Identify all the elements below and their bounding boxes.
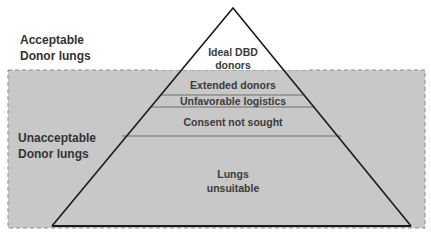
tier-unsuitable-line2: unsuitable xyxy=(207,181,260,195)
tier-ideal-dbd-donors: Ideal DBD donors xyxy=(208,46,258,72)
tier-ideal-line1: Ideal DBD xyxy=(208,46,258,59)
unacceptable-label-line2: Donor lungs xyxy=(18,146,96,162)
tier-consent-not-sought: Consent not sought xyxy=(183,115,282,130)
tier-extended-donors: Extended donors xyxy=(190,78,276,93)
unacceptable-label: Unacceptable Donor lungs xyxy=(18,130,96,162)
tier-lungs-unsuitable: Lungs unsuitable xyxy=(207,167,260,195)
tier-unfavorable-logistics: Unfavorable logistics xyxy=(180,94,286,109)
acceptable-label: Acceptable Donor lungs xyxy=(20,32,91,64)
unacceptable-label-line1: Unacceptable xyxy=(18,130,96,146)
tier-unsuitable-line1: Lungs xyxy=(207,167,260,181)
acceptable-label-line2: Donor lungs xyxy=(20,48,91,64)
tier-ideal-line2: donors xyxy=(208,59,258,72)
acceptable-label-line1: Acceptable xyxy=(20,32,91,48)
